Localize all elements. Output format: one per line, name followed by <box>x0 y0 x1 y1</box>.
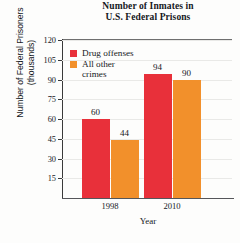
x-axis-line <box>62 198 234 199</box>
x-tick-label: 2010 <box>163 201 180 211</box>
legend-item: All othercrimes <box>70 59 134 79</box>
legend-item: Drug offenses <box>70 48 134 58</box>
chart-legend: Drug offensesAll othercrimes <box>70 48 134 80</box>
x-axis-title: Year <box>62 216 234 226</box>
bar-value-label: 94 <box>153 62 162 72</box>
y-tick-label: 60 <box>48 115 56 124</box>
chart-title-line-1: Number of Inmates in <box>58 1 238 12</box>
legend-label-line-1: All other <box>82 59 115 69</box>
chart-title: Number of Inmates in U.S. Federal Prison… <box>58 1 238 23</box>
y-tick-mark <box>58 80 62 81</box>
legend-swatch <box>70 61 77 68</box>
y-axis-title-line-1: Number of Federal Prisoners <box>15 0 26 143</box>
legend-label-line-1: Drug offenses <box>82 48 134 58</box>
legend-label: Drug offenses <box>82 48 134 58</box>
y-axis-title: Number of Federal Prisoners (thousands) <box>15 0 36 143</box>
y-tick-label: 15 <box>48 174 56 183</box>
x-tick-label: 1998 <box>101 201 118 211</box>
y-tick-mark <box>58 119 62 120</box>
y-axis-title-line-2: (thousands) <box>25 0 36 143</box>
y-tick-mark <box>58 178 62 179</box>
y-tick-mark <box>58 60 62 61</box>
bar <box>111 140 139 198</box>
chart-title-line-2: U.S. Federal Prisons <box>58 12 238 23</box>
bar-chart-figure: Number of Inmates in U.S. Federal Prison… <box>0 0 240 243</box>
bar-value-label: 60 <box>91 107 100 117</box>
y-tick-label: 30 <box>48 154 56 163</box>
legend-label-line-2: crimes <box>82 69 115 79</box>
y-tick-label: 90 <box>48 75 56 84</box>
y-tick-mark <box>58 99 62 100</box>
legend-label: All othercrimes <box>82 59 115 79</box>
y-tick-mark <box>58 139 62 140</box>
y-gridline <box>62 40 232 41</box>
bar <box>82 119 110 198</box>
bar-value-label: 44 <box>120 128 129 138</box>
legend-swatch <box>70 50 77 57</box>
bar <box>144 74 172 198</box>
y-tick-mark <box>58 159 62 160</box>
y-tick-label: 75 <box>48 95 56 104</box>
y-tick-label: 120 <box>43 36 56 45</box>
y-tick-label: 45 <box>48 134 56 143</box>
bar <box>173 80 201 199</box>
bar-value-label: 90 <box>182 68 191 78</box>
y-tick-mark <box>58 40 62 41</box>
y-tick-label: 105 <box>43 55 56 64</box>
